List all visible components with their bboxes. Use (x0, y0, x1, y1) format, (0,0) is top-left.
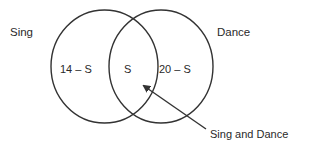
intersection-region-label: S (124, 63, 131, 75)
dance-only-region-label: 20 – S (159, 63, 191, 75)
venn-diagram (0, 0, 309, 148)
sing-set-label: Sing (10, 26, 33, 38)
intersection-callout-label: Sing and Dance (210, 128, 288, 140)
sing-only-region-label: 14 – S (60, 63, 92, 75)
dance-set-label: Dance (217, 26, 250, 38)
